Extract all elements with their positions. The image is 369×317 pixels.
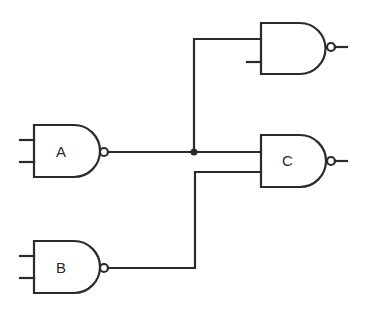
nand-gate-a: A — [20, 125, 108, 177]
gate-b-inversion-bubble — [100, 264, 108, 272]
gate-a-label: A — [56, 143, 66, 160]
nand-gate-b: B — [20, 241, 108, 293]
circuit-svg: A C B — [0, 0, 369, 317]
gate-top-inversion-bubble — [327, 43, 335, 51]
gate-b-label: B — [56, 259, 66, 276]
wire-b-to-c — [108, 172, 261, 268]
logic-circuit-diagram: A C B — [0, 0, 369, 317]
wire-a-to-top — [194, 39, 261, 152]
gate-c-inversion-bubble — [327, 157, 335, 165]
gate-a-inversion-bubble — [100, 148, 108, 156]
wire-junction-dot — [191, 149, 198, 156]
gate-b-body — [34, 241, 100, 293]
gate-a-body — [34, 125, 100, 177]
gate-top-body — [261, 23, 326, 74]
nand-gate-c: C — [261, 135, 347, 187]
gate-c-label: C — [282, 152, 293, 169]
nand-gate-top — [247, 23, 347, 74]
gate-c-body — [261, 135, 326, 187]
